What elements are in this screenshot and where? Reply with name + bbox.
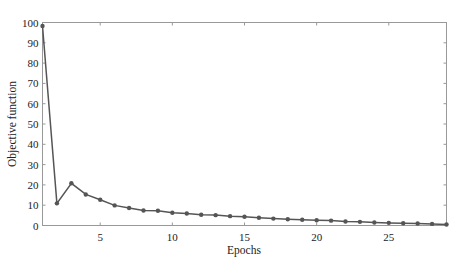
y-tick-label: 50 xyxy=(28,118,40,130)
data-point-marker xyxy=(358,220,362,224)
y-tick-label: 40 xyxy=(28,138,40,150)
data-point-marker xyxy=(314,218,318,222)
y-tick-label: 0 xyxy=(33,220,39,232)
y-tick-label: 10 xyxy=(28,199,40,211)
data-point-marker xyxy=(228,214,232,218)
data-point-marker xyxy=(372,220,376,224)
data-point-marker xyxy=(84,192,88,196)
y-tick-label: 70 xyxy=(28,77,40,89)
data-point-marker xyxy=(430,222,434,226)
data-point-marker xyxy=(343,219,347,223)
data-point-marker xyxy=(271,216,275,220)
plot-area xyxy=(43,23,447,226)
data-point-marker xyxy=(69,181,73,185)
data-point-marker xyxy=(170,211,174,215)
data-point-marker xyxy=(444,222,448,226)
data-point-marker xyxy=(415,221,419,225)
data-point-marker xyxy=(286,217,290,221)
y-tick-label: 80 xyxy=(28,57,40,69)
data-point-marker xyxy=(40,24,44,28)
plot-frame xyxy=(43,23,447,226)
data-point-marker xyxy=(300,218,304,222)
data-point-marker xyxy=(98,198,102,202)
y-tick-label: 30 xyxy=(28,159,40,171)
x-axis-label: Epochs xyxy=(227,244,261,257)
data-point-marker xyxy=(257,216,261,220)
x-tick-label: 10 xyxy=(167,231,179,243)
x-tick-label: 5 xyxy=(97,231,103,243)
data-point-marker xyxy=(156,208,160,212)
y-tick-label: 20 xyxy=(28,179,40,191)
data-point-marker xyxy=(401,221,405,225)
data-point-marker xyxy=(141,208,145,212)
data-point-marker xyxy=(199,213,203,217)
x-tick-label: 20 xyxy=(311,231,323,243)
x-tick-label: 15 xyxy=(239,231,251,243)
y-tick-label: 90 xyxy=(28,37,40,49)
data-point-marker xyxy=(55,201,59,205)
data-point-marker xyxy=(185,211,189,215)
data-point-marker xyxy=(112,203,116,207)
data-point-marker xyxy=(242,215,246,219)
line-chart: 0102030405060708090100 510152025 Epochs … xyxy=(0,0,459,272)
y-tick-label: 60 xyxy=(28,98,40,110)
x-tick-label: 25 xyxy=(383,231,395,243)
y-axis-label: Objective function xyxy=(6,81,19,167)
data-point-marker xyxy=(329,218,333,222)
data-point-marker xyxy=(387,221,391,225)
data-point-marker xyxy=(127,206,131,210)
y-tick-label: 100 xyxy=(22,17,39,29)
data-point-marker xyxy=(213,213,217,217)
